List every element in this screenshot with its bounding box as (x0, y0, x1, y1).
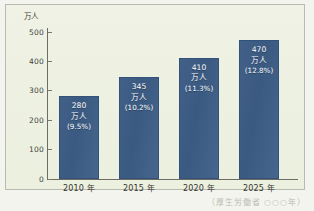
y-tick-mark (48, 32, 52, 33)
y-tick-label: 500 (29, 27, 44, 36)
bar-value-number: 470 (240, 45, 278, 55)
bar-value-number: 345 (120, 82, 158, 92)
bar-value-unit: 万人 (60, 112, 98, 122)
bar-value-label: 470万人(12.8%) (240, 45, 278, 76)
bar-value-unit: 万人 (120, 93, 158, 103)
bar-value-number: 410 (180, 63, 218, 73)
y-tick-label: 400 (29, 56, 44, 65)
bar-value-unit: 万人 (180, 73, 218, 83)
bar-percent: (12.8%) (240, 66, 278, 76)
x-category-label: 2025 年 (224, 182, 294, 193)
bar-value-unit: 万人 (240, 56, 278, 66)
chart-bar[interactable]: 470万人(12.8%) (239, 40, 279, 178)
chart-source-caption: （厚生労働省 ○○○年） (0, 196, 314, 207)
y-tick-mark (48, 120, 52, 121)
bar-percent: (10.2%) (120, 103, 158, 113)
chart-figure: 万人 0100200300400500280万人(9.5%)2010 年345万… (5, 4, 305, 190)
chart-bar[interactable]: 345万人(10.2%) (119, 77, 159, 179)
bar-value-label: 345万人(10.2%) (120, 82, 158, 113)
bar-percent: (9.5%) (60, 122, 98, 132)
chart-plot-area: 0100200300400500280万人(9.5%)2010 年345万人(1… (6, 5, 306, 191)
bar-value-label: 410万人(11.3%) (180, 63, 218, 94)
bar-value-number: 280 (60, 101, 98, 111)
y-tick-mark (48, 179, 52, 180)
bar-percent: (11.3%) (180, 84, 218, 94)
y-axis-line (47, 28, 48, 179)
chart-bar[interactable]: 410万人(11.3%) (179, 58, 219, 179)
y-tick-label: 200 (29, 115, 44, 124)
y-tick-mark (48, 149, 52, 150)
y-tick-label: 100 (29, 145, 44, 154)
y-tick-mark (48, 90, 52, 91)
y-tick-label: 300 (29, 86, 44, 95)
y-tick-mark (48, 61, 52, 62)
x-axis-line (47, 179, 298, 180)
bar-value-label: 280万人(9.5%) (60, 101, 98, 132)
chart-bar[interactable]: 280万人(9.5%) (59, 96, 99, 178)
